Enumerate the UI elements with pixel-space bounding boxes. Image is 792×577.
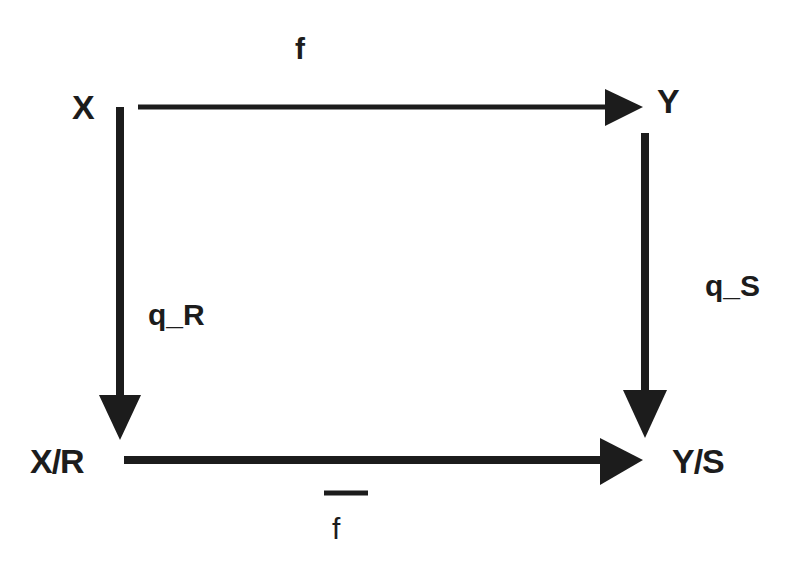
node-x: X (72, 90, 94, 124)
node-y: Y (657, 84, 679, 118)
commutative-diagram: X Y X/R Y/S f q_R q_S f (0, 0, 792, 577)
label-q-s: q_S (705, 271, 760, 301)
arrow-q-s (623, 133, 667, 438)
label-f-top: f (295, 34, 305, 64)
label-q-r: q_R (148, 300, 205, 330)
node-y-s: Y/S (672, 444, 724, 478)
node-x-r: X/R (30, 444, 84, 478)
arrow-f-bar-bottom (124, 438, 643, 485)
arrow-q-r (99, 107, 141, 440)
label-f-bar: f (332, 514, 340, 544)
arrow-f-top (138, 89, 643, 126)
